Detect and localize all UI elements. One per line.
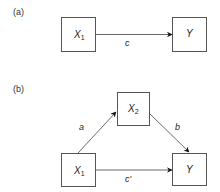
edge-label: c — [125, 38, 130, 48]
mediation-diagram: X1 Y c X2 X1 Y a b — [0, 0, 220, 192]
edge-a-c: c — [96, 35, 173, 49]
node-b-y: Y — [173, 154, 207, 186]
node-sub: 1 — [81, 34, 85, 41]
node-b-x2: X2 — [118, 93, 150, 126]
edge-b-b: b — [149, 113, 189, 152]
edge-label: b — [175, 122, 180, 132]
edge-label: c' — [125, 174, 132, 184]
panel-a: X1 Y c — [62, 18, 207, 52]
edge-label: a — [79, 122, 84, 132]
edge-b-a: a — [78, 112, 116, 153]
node-a-x1: X1 — [62, 18, 96, 52]
node-a-y: Y — [173, 18, 207, 52]
node-sub: 2 — [135, 108, 139, 115]
panel-b: X2 X1 Y a b c' — [62, 93, 207, 187]
node-sub: 1 — [81, 170, 85, 177]
edge-b-cprime: c' — [96, 170, 173, 184]
node-b-x1: X1 — [62, 154, 96, 187]
